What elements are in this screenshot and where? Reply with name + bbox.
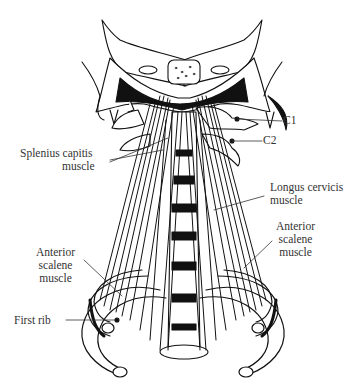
label-first-rib: First rib: [14, 314, 51, 327]
label-c2: C2: [263, 134, 276, 147]
label-c1: C1: [283, 114, 296, 127]
label-longus-cervicis: Longus cervicis muscle: [270, 181, 343, 207]
anatomy-figure: C1 C2 Splenius capitis muscle Longus cer…: [0, 0, 364, 387]
label-splenius-capitis: Splenius capitis muscle: [18, 147, 95, 173]
label-anterior-scalene-left: Anterior scalene muscle: [36, 246, 75, 285]
label-anterior-scalene-right: Anterior scalene muscle: [276, 220, 315, 259]
